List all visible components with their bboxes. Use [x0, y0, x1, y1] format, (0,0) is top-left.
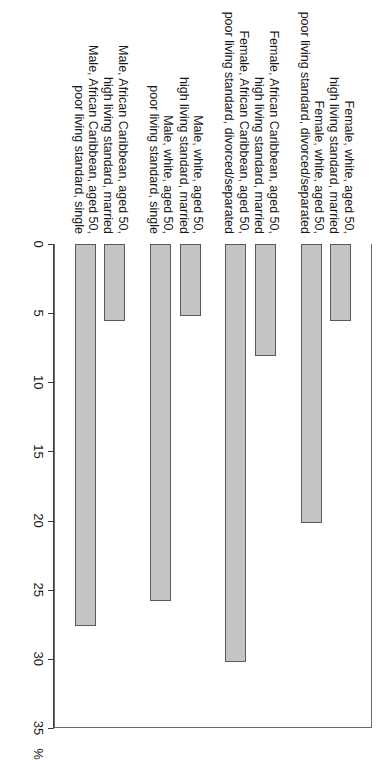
axis-tick	[48, 313, 54, 314]
axis-tick	[48, 382, 54, 383]
axis-tick-label: 35	[31, 721, 45, 735]
category-label: Female, white, aged 50, poor living stan…	[297, 12, 326, 234]
bar	[255, 244, 276, 356]
axis-tick-label: 20	[31, 513, 45, 527]
axis-tick-label: 0	[31, 240, 45, 247]
axis-tick	[48, 728, 54, 729]
value-axis: % 05101520253035	[53, 244, 54, 728]
category-label: Male, white, aged 50, high living standa…	[176, 77, 205, 234]
axis-tick	[48, 521, 54, 522]
axis-tick-label: 15	[31, 444, 45, 458]
axis-line	[53, 244, 54, 728]
bar	[75, 244, 96, 626]
bar	[225, 244, 246, 662]
category-label: Female, African Caribbean, aged 50, high…	[251, 30, 280, 234]
category-label: Female, African Caribbean, aged 50, poor…	[221, 12, 250, 234]
bars-layer	[54, 244, 372, 728]
plot-area	[54, 244, 372, 728]
bar	[330, 244, 351, 321]
bar	[104, 244, 125, 321]
axis-tick	[48, 590, 54, 591]
axis-tick-label: 5	[31, 310, 45, 317]
category-label: Male, African Caribbean, aged 50, poor l…	[71, 45, 100, 234]
axis-tick-label: 25	[31, 582, 45, 596]
bar	[180, 244, 201, 316]
category-label: Male, African Caribbean, aged 50, high l…	[100, 45, 129, 234]
axis-tick-label: 30	[31, 652, 45, 666]
axis-tick	[48, 244, 54, 245]
bar	[301, 244, 322, 523]
category-label: Male, white, aged 50, poor living standa…	[146, 85, 175, 234]
category-axis-labels: Female, white, aged 50, high living stan…	[54, 0, 372, 240]
axis-tick	[48, 451, 54, 452]
axis-tick	[48, 659, 54, 660]
bar	[150, 244, 171, 601]
category-label: Female, white, aged 50, high living stan…	[326, 77, 355, 234]
axis-unit-label: %	[31, 748, 45, 760]
axis-tick-label: 10	[31, 375, 45, 389]
